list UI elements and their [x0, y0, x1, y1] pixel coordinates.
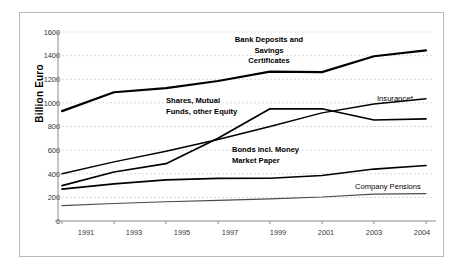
annotation-bank-deposits: Bank Deposits and Savings Certificates	[214, 35, 324, 67]
annotation-insurance-text: Insurance*	[377, 94, 413, 105]
annotation-bank-deposits-line1: Bank Deposits and	[214, 35, 324, 46]
annotation-bonds: Bonds incl. Money Market Paper	[232, 145, 299, 166]
annotation-insurance: Insurance*	[377, 94, 413, 105]
annotation-pensions-text: Company Pensions	[355, 182, 421, 193]
annotation-shares: Shares, Mutual Funds, other Equity	[166, 96, 237, 117]
chart-figure: Billion Euro 1600 1400 1200 1000 800 600…	[0, 0, 463, 269]
series-line-4	[62, 194, 426, 206]
annotation-bonds-line2: Market Paper	[232, 156, 299, 167]
annotation-bonds-line1: Bonds incl. Money	[232, 145, 299, 156]
annotation-bank-deposits-line3: Certificates	[214, 56, 324, 67]
annotation-shares-line1: Shares, Mutual	[166, 96, 237, 107]
annotation-pensions: Company Pensions	[355, 182, 421, 193]
annotation-bank-deposits-line2: Savings	[214, 46, 324, 57]
annotation-shares-line2: Funds, other Equity	[166, 107, 237, 118]
